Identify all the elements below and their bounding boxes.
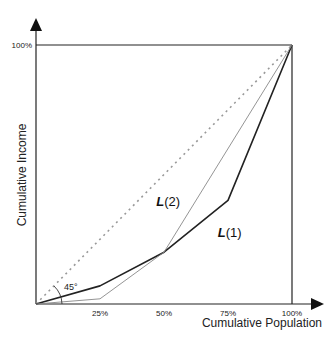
y-axis-title: Cumulative Income (15, 123, 29, 226)
series-line-of-equality (36, 45, 292, 304)
x-axis-arrow-icon (311, 298, 324, 310)
x-axis-title: Cumulative Population (202, 316, 322, 330)
y-tick-100: 100% (12, 41, 32, 50)
y-axis-arrow-icon (30, 18, 42, 31)
x-tick-50: 50% (156, 309, 172, 318)
x-tick-25: 25% (92, 309, 108, 318)
lorenz-curve-chart: 45° 25%50%75%100% 100% Cumulative Popula… (0, 0, 336, 342)
angle-arc (54, 286, 62, 304)
curve-label-l2: L(2) (156, 194, 180, 209)
angle-label: 45° (64, 282, 78, 292)
curve-label-l1: L(1) (218, 225, 242, 240)
